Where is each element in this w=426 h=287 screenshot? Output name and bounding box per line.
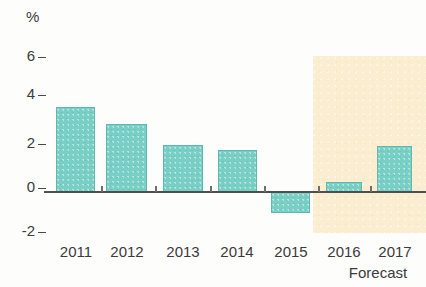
bar-2015 (271, 192, 310, 213)
x-axis-label-2017: 2017 (367, 243, 423, 260)
y-axis-tick-0: 0 (14, 178, 46, 195)
forecast-shaded-band (313, 56, 426, 233)
x-axis-tick (370, 186, 372, 192)
y-axis-tick-mark (38, 232, 46, 233)
x-axis-tick (318, 186, 320, 192)
y-axis-tick-label-6: 6 (27, 47, 35, 64)
forecast-caption: Forecast (330, 264, 426, 281)
y-axis-tick-mark (38, 57, 46, 58)
y-axis-tick-mark (38, 188, 46, 189)
bar-2014 (218, 150, 257, 192)
bar-chart: % 6 4 2 0 -2 2011 2012 2013 2014 2015 20… (0, 0, 426, 287)
bar-2013 (163, 145, 203, 192)
bar-2012 (106, 124, 147, 192)
y-axis-tick-6: 6 (14, 47, 46, 64)
bar-2011 (56, 107, 95, 192)
bar-2017 (377, 146, 412, 192)
y-axis-tick-2: 2 (14, 134, 46, 151)
x-axis-label-2012: 2012 (99, 243, 155, 260)
y-axis-tick-label-0: 0 (27, 178, 35, 195)
y-axis-tick-4: 4 (14, 85, 46, 102)
x-axis-tick (264, 186, 266, 192)
y-axis-tick-mark (38, 95, 46, 96)
y-axis-unit-label: % (26, 8, 40, 25)
x-axis-tick (210, 186, 212, 192)
x-axis-label-2013: 2013 (155, 243, 211, 260)
x-axis-tick (101, 186, 103, 192)
x-axis-tick (155, 186, 157, 192)
y-axis-tick-mark (38, 144, 46, 145)
x-axis-label-2011: 2011 (48, 243, 104, 260)
y-axis-tick-label-4: 4 (27, 85, 35, 102)
x-axis-label-2015: 2015 (263, 243, 319, 260)
x-axis-label-2016: 2016 (316, 243, 372, 260)
y-axis-tick-label-2: 2 (27, 134, 35, 151)
y-axis-tick-label-minus-2: -2 (22, 222, 35, 239)
x-axis-label-2014: 2014 (209, 243, 265, 260)
y-axis-tick-minus-2: -2 (6, 222, 46, 239)
